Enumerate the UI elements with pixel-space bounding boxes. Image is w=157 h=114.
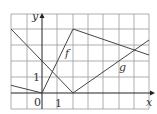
axes [11,16,150,109]
y-axis-label: y [32,11,38,22]
x-axis-label: x [146,97,152,108]
x-tick-label: 1 [55,98,62,109]
graph [0,0,157,114]
x-axis-arrow-icon [150,91,155,96]
y-tick-label: 1 [33,72,40,83]
origin-label: 0 [34,97,41,108]
curve-g-label: g [119,62,126,73]
curve-f-label: f [65,48,69,59]
grid [11,14,149,109]
